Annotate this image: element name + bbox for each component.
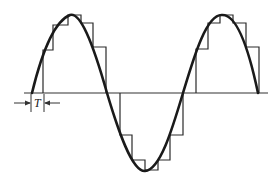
sample-period-label: T <box>34 96 41 111</box>
t-marker-left-arrowhead-icon <box>25 101 31 106</box>
t-marker-right-arrowhead-icon <box>44 101 50 106</box>
staircase-positive-1 <box>43 15 106 93</box>
sampled-sine-diagram <box>0 0 275 179</box>
staircase-negative <box>120 93 183 170</box>
staircase-positive-2 <box>196 15 259 93</box>
